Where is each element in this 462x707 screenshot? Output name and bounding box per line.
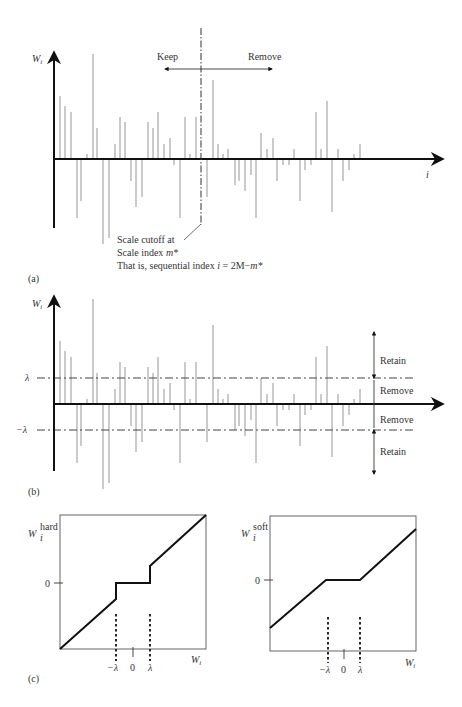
- y-axis-label-a: Wi: [32, 53, 42, 66]
- hard-zero-x-label: 0: [130, 662, 135, 673]
- remove-top-label: Remove: [380, 385, 414, 396]
- cutoff-pointer: [184, 224, 201, 240]
- remove-label: Remove: [248, 51, 282, 62]
- panel-a: Keep Remove Wi i Scale cutoff at Scale i…: [28, 28, 442, 285]
- soft-plot-frame: [270, 516, 416, 651]
- soft-y-sub: i: [253, 532, 256, 543]
- soft-lambda-label: λ: [357, 664, 363, 675]
- panel-label-a: (a): [28, 273, 39, 285]
- soft-threshold-curve: [270, 529, 416, 628]
- y-axis-label-b: Wi: [32, 298, 42, 311]
- coefficient-bars-b: [60, 299, 360, 489]
- soft-y-label: W: [241, 528, 251, 539]
- panel-label-c: (c): [28, 673, 39, 685]
- retain-top-label: Retain: [380, 355, 406, 366]
- soft-zero-x-label: 0: [341, 664, 346, 675]
- hard-y-label: W: [28, 528, 38, 539]
- hard-threshold-curve: [60, 515, 206, 649]
- remove-bottom-label: Remove: [380, 414, 414, 425]
- keep-label: Keep: [157, 51, 178, 62]
- soft-y-sup: soft: [253, 521, 268, 532]
- wavelet-threshold-figure: Keep Remove Wi i Scale cutoff at Scale i…: [0, 0, 462, 707]
- hard-lambda-label: λ: [147, 662, 153, 673]
- panel-b: Retain Remove Remove Retain λ −λ Wi (b): [16, 297, 442, 498]
- panel-c-soft: W soft i 0 Wi −λ 0 λ: [241, 516, 416, 675]
- soft-neg-lambda-label: −λ: [319, 664, 331, 675]
- hard-zero-label: 0: [45, 578, 50, 589]
- cutoff-text-line2: Scale index m*: [117, 247, 178, 258]
- neg-lambda-label: −λ: [16, 424, 28, 435]
- coefficient-bars-a: [60, 54, 360, 244]
- hard-y-sup: hard: [40, 521, 58, 532]
- hard-neg-lambda-label: −λ: [107, 662, 119, 673]
- cutoff-text-line1: Scale cutoff at: [117, 234, 175, 245]
- hard-y-sub: i: [40, 532, 43, 543]
- hard-x-label: Wi: [191, 654, 201, 667]
- lambda-label: λ: [24, 372, 30, 383]
- soft-zero-label: 0: [255, 575, 260, 586]
- x-axis-label-a: i: [426, 169, 429, 180]
- retain-bottom-label: Retain: [380, 446, 406, 457]
- panel-label-b: (b): [28, 486, 40, 498]
- cutoff-text-line3: That is, sequential index i = 2M−m*: [117, 260, 262, 271]
- soft-x-label: Wi: [405, 657, 415, 670]
- panel-c-hard: W hard i 0 Wi −λ 0 λ (c): [28, 515, 206, 685]
